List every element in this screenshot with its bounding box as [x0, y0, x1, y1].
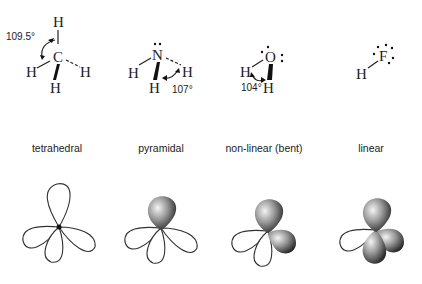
central-atom-o: O [265, 49, 276, 65]
bond-h-f [368, 61, 378, 68]
water-structure: O H H 104° [240, 46, 283, 96]
methane-structure: H C H H H 109.5° [6, 14, 91, 96]
lobe-top [47, 184, 70, 227]
orbital-pyramidal [125, 196, 197, 263]
bond-angle-label: 109.5° [6, 31, 35, 42]
h-atom-right: H [182, 64, 193, 80]
molecular-geometry-diagram: H C H H H 109.5° N H H H 107° O [0, 0, 422, 284]
shape-label-tetrahedral: tetrahedral [32, 142, 82, 154]
bond-left [37, 61, 50, 68]
lone-pair-dot [281, 54, 283, 56]
orbital-linear [340, 198, 404, 263]
h-atom: H [356, 66, 367, 82]
lone-pair-dot [267, 46, 269, 48]
bond-wedge [53, 64, 60, 80]
h-atom-top: H [53, 14, 64, 30]
arrowhead-icon [162, 75, 167, 81]
bond-wedge [267, 64, 273, 80]
nucleus-dot [57, 225, 62, 230]
h-atom-bottom: H [149, 80, 160, 96]
h-atom-bottom: H [263, 80, 274, 96]
arrowhead-icon [40, 55, 45, 60]
shape-label-bent: non-linear (bent) [225, 142, 302, 154]
h-atom-left: H [128, 65, 139, 81]
lone-pair-dot [373, 53, 375, 55]
h-atom-left: H [26, 64, 37, 80]
bond-angle-label: 107° [172, 84, 193, 95]
lobe-right [59, 227, 95, 251]
h-atom-bottom: H [50, 80, 61, 96]
central-atom-f: F [379, 48, 387, 64]
lone-pair-dot [281, 60, 283, 62]
hydrogen-fluoride-structure: F H [356, 44, 394, 82]
shape-label-linear: linear [358, 142, 384, 154]
bond-angle-label: 104° [241, 82, 262, 93]
shape-label-pyramidal: pyramidal [138, 142, 184, 154]
bond-right-dashed [166, 58, 181, 65]
lone-pair-dot [261, 51, 263, 53]
lone-pair-lobe-top [363, 198, 391, 232]
lone-pair-lobe-top [255, 199, 283, 233]
lone-pair-dot [388, 62, 390, 64]
bond-wedge [153, 62, 160, 80]
lone-pair-dot [385, 44, 387, 46]
central-atom-c: C [53, 49, 63, 65]
lone-pair-dot [159, 43, 161, 45]
orbital-bent [232, 199, 296, 266]
ammonia-structure: N H H H 107° [128, 43, 193, 96]
bond-left [252, 60, 263, 67]
bond-right-dashed [66, 60, 80, 67]
central-atom-n: N [152, 47, 163, 63]
lone-pair-dot [392, 57, 394, 59]
lone-pair-dot [154, 43, 156, 45]
h-atom-right: H [80, 64, 91, 80]
orbital-tetrahedral [23, 184, 95, 263]
h-atom-left: H [240, 64, 251, 80]
lobe-right [161, 228, 197, 252]
lone-pair-lobe [148, 196, 176, 230]
bond-left [139, 58, 151, 65]
lone-pair-dot [391, 47, 393, 49]
